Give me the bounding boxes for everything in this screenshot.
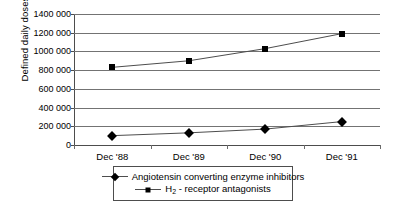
x-tick-mark xyxy=(151,145,152,149)
chart-figure: Defined daily doses 0200 000400 000600 0… xyxy=(0,0,403,206)
plot-area: 0200 000400 000600 000800 0001000 000120… xyxy=(74,14,380,145)
data-markers-group xyxy=(74,14,380,145)
square-data-point xyxy=(262,46,268,52)
y-tick-label: 800 000 xyxy=(38,66,71,75)
square-data-point xyxy=(339,31,345,37)
legend-label-h2-antagonists: H2 - receptor antagonists xyxy=(165,184,270,195)
legend-label-ace-inhibitors: Angiotensin converting enzyme inhibitors xyxy=(132,172,305,182)
y-tick-label: 600 000 xyxy=(38,84,71,93)
legend-label-h2-suffix: - receptor antagonists xyxy=(176,183,271,194)
square-marker-icon xyxy=(135,185,161,195)
square-data-point xyxy=(186,58,192,64)
y-tick-label: 200 000 xyxy=(38,122,71,131)
x-tick-mark xyxy=(380,145,381,149)
y-tick-label: 1200 000 xyxy=(33,28,71,37)
x-tick-label: Dec '90 xyxy=(249,151,281,162)
diamond-data-point xyxy=(337,117,347,127)
y-tick-label: 0 xyxy=(66,141,71,150)
y-axis-title: Defined daily doses xyxy=(19,0,33,99)
y-tick-label: 1000 000 xyxy=(33,47,71,56)
x-tick-mark xyxy=(74,145,75,149)
x-tick-mark xyxy=(227,145,228,149)
x-tick-label: Dec '88 xyxy=(96,151,128,162)
diamond-marker-icon xyxy=(102,172,128,182)
chart-legend: Angiotensin converting enzyme inhibitors… xyxy=(113,166,293,201)
legend-item-h2-antagonists: H2 - receptor antagonists xyxy=(114,183,292,196)
diamond-data-point xyxy=(260,124,270,134)
x-axis: Dec '88Dec '89Dec '90Dec '91 xyxy=(74,145,380,167)
x-tick-label: Dec '91 xyxy=(326,151,358,162)
legend-item-ace-inhibitors: Angiotensin converting enzyme inhibitors xyxy=(114,170,292,183)
x-tick-mark xyxy=(304,145,305,149)
diamond-data-point xyxy=(184,128,194,138)
diamond-data-point xyxy=(107,131,117,141)
legend-label-h2-subscript: 2 xyxy=(172,188,176,195)
y-tick-label: 400 000 xyxy=(38,103,71,112)
square-data-point xyxy=(109,64,115,70)
y-tick-label: 1400 000 xyxy=(33,10,71,19)
x-tick-label: Dec '89 xyxy=(173,151,205,162)
